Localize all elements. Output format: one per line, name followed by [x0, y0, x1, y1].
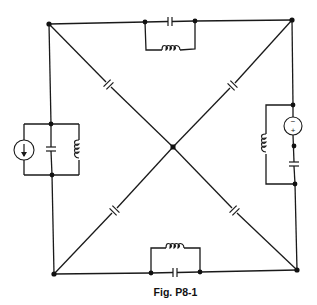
right-branch: − + [262, 105, 303, 184]
capacitor-icon [168, 17, 172, 26]
node-right-branch-bottom [293, 182, 298, 187]
node-right-branch-top [291, 103, 296, 108]
node-bottom-left [51, 271, 56, 276]
inductor-icon [162, 46, 180, 51]
capacitor-icon [289, 162, 299, 166]
bottom-branch [151, 244, 200, 278]
voltage-source-icon: − + [284, 117, 302, 135]
plus-sign: + [291, 126, 296, 135]
diagonal-bottom-left [54, 147, 173, 274]
inductor-icon [262, 134, 267, 152]
node-bottom-branch-right [198, 270, 203, 275]
capacitor-icon [173, 268, 177, 277]
diagonal-top-left [49, 24, 173, 147]
inductor-icon [166, 244, 184, 249]
diagonal-bottom-right [173, 147, 297, 270]
left-branch [14, 124, 79, 175]
node-bottom-branch-left [149, 271, 154, 276]
node-center [171, 145, 176, 150]
node-right-branch-mid [292, 144, 297, 149]
minus-sign: − [291, 117, 296, 126]
figure-caption: Fig. P8-1 [0, 286, 317, 298]
node-top-branch-left [143, 20, 148, 25]
node-top-branch-right [193, 19, 198, 24]
node-left-branch-bottom [50, 173, 55, 178]
current-source-icon [14, 140, 34, 160]
node-left-branch-top [49, 122, 54, 127]
inductor-icon [75, 140, 80, 158]
node-bottom-right [294, 267, 299, 272]
diagonal-top-right [173, 20, 292, 147]
node-top-left [46, 21, 51, 26]
top-branch [145, 17, 195, 50]
node-top-right [289, 17, 294, 22]
circuit-diagram: − + [0, 0, 317, 305]
capacitor-icon [46, 147, 56, 151]
